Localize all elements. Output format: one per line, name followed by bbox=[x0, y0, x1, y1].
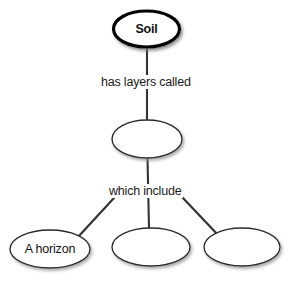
link-layers-to-left bbox=[78, 198, 114, 237]
node-layers[interactable] bbox=[112, 120, 182, 158]
link-label-which-include: which include bbox=[107, 184, 183, 198]
link-layers-to-right bbox=[182, 197, 219, 236]
node-label-root-soil: Soil bbox=[113, 22, 180, 36]
node-horizon-blank-1[interactable] bbox=[112, 228, 190, 266]
node-label-horizon-a: A horizon bbox=[10, 242, 90, 256]
link-label-has-layers-called: has layers called bbox=[99, 75, 193, 89]
concept-map-diagram: Soil has layers called which include A h… bbox=[0, 0, 295, 285]
node-horizon-blank-2[interactable] bbox=[204, 228, 280, 266]
